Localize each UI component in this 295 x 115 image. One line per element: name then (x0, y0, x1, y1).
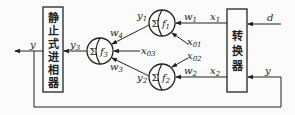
sum-symbol: Σ (151, 72, 158, 83)
neuron-f2: Σ f2 (149, 64, 175, 90)
label-y-feedback: y (264, 65, 271, 76)
converter-char-3: 器 (231, 60, 244, 73)
label-y-out: y (29, 39, 36, 50)
label-w2: w2 (184, 65, 198, 78)
compensator-char-6: 器 (47, 77, 60, 90)
label-x03: x03 (141, 45, 156, 58)
sum-symbol: Σ (151, 18, 158, 29)
compensator-block: 静 止 式 进 相 器 (43, 7, 63, 92)
label-x02: x02 (187, 50, 202, 63)
neuron-f1: Σ f1 (149, 10, 175, 36)
compensator-char-5: 相 (48, 63, 59, 77)
label-w1: w1 (184, 11, 197, 24)
compensator-char-4: 进 (48, 50, 59, 64)
label-w4: w4 (110, 27, 123, 40)
compensator-char-1: 静 (48, 11, 59, 25)
label-d: d (267, 12, 273, 23)
sum-symbol: Σ (89, 46, 96, 57)
label-x1: x1 (210, 11, 220, 24)
neural-control-diagram: 静 止 式 进 相 器 转 换 器 Σ f1 Σ f2 Σ f3 (0, 0, 295, 115)
converter-char-1: 转 (232, 29, 243, 43)
compensator-char-3: 式 (48, 37, 59, 51)
label-x01: x01 (187, 36, 202, 49)
converter-char-2: 换 (232, 44, 244, 58)
converter-block: 转 换 器 (227, 9, 247, 92)
label-x2: x2 (210, 65, 221, 78)
label-y3: y3 (69, 39, 81, 52)
label-y1: y1 (136, 10, 147, 23)
compensator-char-2: 止 (48, 24, 59, 38)
